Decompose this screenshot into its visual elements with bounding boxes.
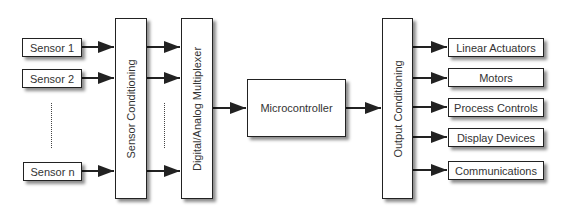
sensor-n-label: Sensor n [30,166,74,178]
sensor-ellipsis [51,103,52,148]
process-controls-box: Process Controls [448,98,544,117]
output-conditioning-label: Output Conditioning [392,60,404,157]
channel-ellipsis [164,103,165,148]
sensor-conditioning-block: Sensor Conditioning [115,18,147,199]
communications-box: Communications [448,161,544,180]
multiplexer-block: Digital/Analog Multiplexer [181,18,213,199]
sensor-n-box: Sensor n [23,162,82,181]
microcontroller-label: Microcontroller [260,102,332,114]
sensor-1-label: Sensor 1 [30,42,74,54]
display-devices-label: Display Devices [457,132,535,144]
sensor-conditioning-label: Sensor Conditioning [125,59,137,158]
sensor-2-box: Sensor 2 [22,69,82,88]
sensor-1-box: Sensor 1 [22,38,82,57]
sensor-2-label: Sensor 2 [30,73,74,85]
microcontroller-block: Microcontroller [247,79,346,137]
motors-label: Motors [479,72,513,84]
process-controls-label: Process Controls [454,102,538,114]
motors-box: Motors [448,68,544,87]
output-conditioning-block: Output Conditioning [382,18,413,199]
communications-label: Communications [455,165,537,177]
linear-actuators-box: Linear Actuators [448,38,544,57]
multiplexer-label: Digital/Analog Multiplexer [191,46,203,170]
display-devices-box: Display Devices [448,128,544,147]
linear-actuators-label: Linear Actuators [456,42,536,54]
